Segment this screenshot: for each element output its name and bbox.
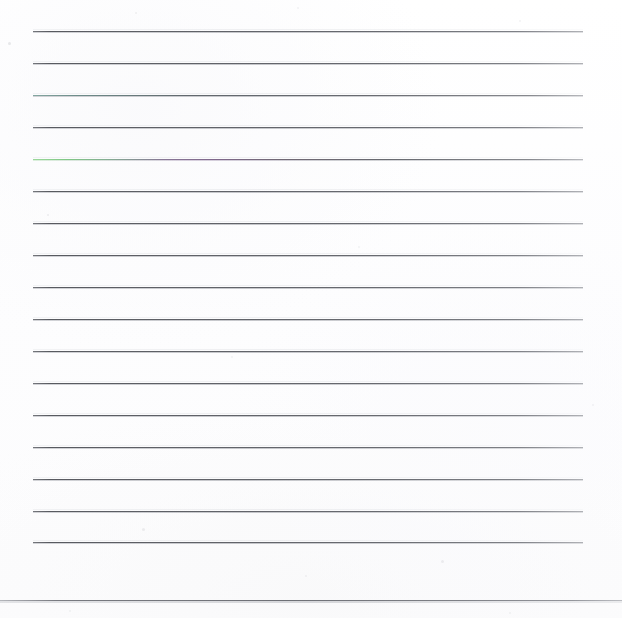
ruled-line	[33, 95, 583, 97]
scanned-page	[0, 0, 622, 618]
ruled-line-halo	[33, 224, 583, 225]
ruled-line	[33, 511, 583, 513]
ruled-line-ghost	[33, 413, 583, 414]
footer-separator-halo	[0, 601, 622, 603]
ruled-line-ghost	[33, 509, 583, 510]
ruled-line-ghost	[33, 189, 583, 190]
ruled-line-ghost	[33, 157, 583, 158]
ruled-line-halo	[33, 192, 583, 193]
ruled-lines-layer	[0, 0, 622, 618]
ruled-line	[33, 542, 583, 544]
ruled-line-halo	[33, 160, 583, 161]
ruled-line-ghost	[33, 445, 583, 446]
ruled-line-ghost	[33, 477, 583, 478]
ruled-line	[33, 63, 583, 65]
ruled-line-ghost	[33, 381, 583, 382]
ruled-line-halo	[33, 543, 583, 544]
ruled-line	[33, 383, 583, 385]
ruled-line	[33, 127, 583, 129]
ruled-line	[33, 447, 583, 449]
ruled-line-halo	[33, 64, 583, 65]
ruled-line-halo	[33, 480, 583, 481]
ruled-line-halo	[33, 288, 583, 289]
ruled-line	[33, 223, 583, 225]
ruled-line-halo	[33, 128, 583, 129]
ruled-line-ghost	[33, 125, 583, 126]
ruled-line	[33, 479, 583, 481]
ruled-line-halo	[33, 384, 583, 385]
ruled-line-halo	[33, 256, 583, 257]
ruled-line-ghost	[33, 93, 583, 94]
ruled-line-halo	[33, 416, 583, 417]
ruled-line-halo	[33, 320, 583, 321]
ruled-line-ghost	[33, 349, 583, 350]
ruled-line	[33, 319, 583, 321]
ruled-line	[33, 255, 583, 257]
ruled-line-ghost	[33, 253, 583, 254]
ruled-line-halo	[33, 32, 583, 33]
ruled-line-halo	[33, 352, 583, 353]
ruled-line-ghost	[33, 221, 583, 222]
ruled-line	[33, 287, 583, 289]
ruled-line	[33, 415, 583, 417]
ruled-line	[33, 31, 583, 33]
ruled-line	[33, 191, 583, 193]
footer-separator-line	[0, 600, 622, 603]
ruled-line-ghost	[33, 61, 583, 62]
ruled-line-halo	[33, 448, 583, 449]
ruled-line-ghost	[33, 317, 583, 318]
ruled-line-ghost	[33, 29, 583, 30]
ruled-line-halo	[33, 96, 583, 97]
ruled-line-ghost	[33, 285, 583, 286]
ruled-line	[33, 159, 583, 161]
ruled-line-halo	[33, 512, 583, 513]
ruled-line-ghost	[33, 540, 583, 541]
ruled-line	[33, 351, 583, 353]
